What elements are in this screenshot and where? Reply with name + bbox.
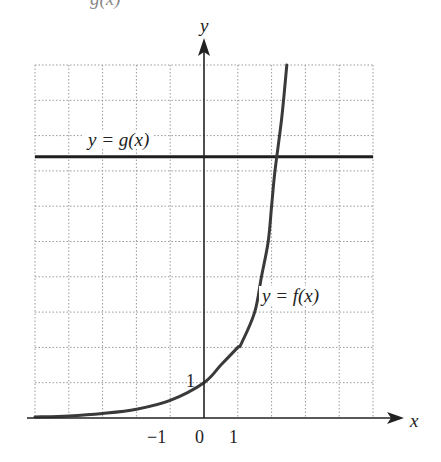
x-tick-label-0: 0 (195, 428, 204, 446)
x-axis-label: x (410, 411, 418, 430)
y-tick-label-1: 1 (186, 372, 195, 390)
g-function-label: y = g(x) (84, 130, 153, 149)
x-tick-label-neg1: −1 (147, 428, 166, 446)
x-tick-label-1: 1 (229, 428, 238, 446)
exponential-graph-figure: g(x) y x y = g(x) y = f(x) 1 −1 0 1 (0, 0, 441, 462)
y-axis-label: y (200, 16, 208, 35)
f-curve (35, 65, 287, 417)
plot-svg (0, 0, 441, 462)
f-function-label: y = f(x) (259, 286, 322, 305)
